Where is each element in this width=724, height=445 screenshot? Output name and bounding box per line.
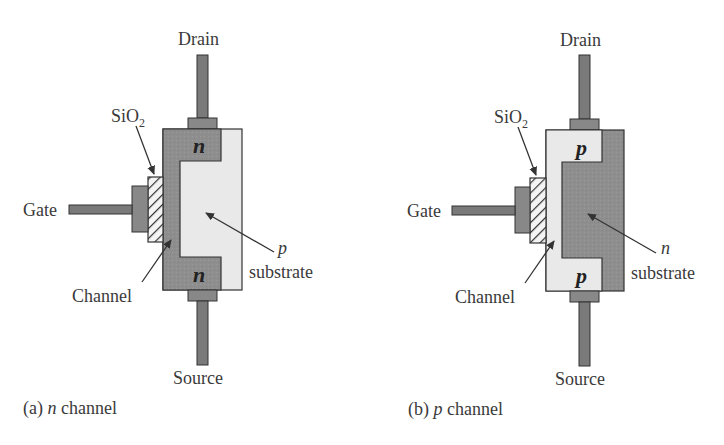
source-region-label: n xyxy=(193,262,205,287)
drain-contact-pad xyxy=(188,118,217,129)
gate-lead xyxy=(452,206,515,215)
substrate-type-label: p xyxy=(276,238,287,258)
panel-b-p-channel: Drain p p Source Gate SiO2 Channel n sub… xyxy=(407,30,695,420)
drain-label: Drain xyxy=(178,29,219,49)
channel-label: Channel xyxy=(455,287,515,307)
substrate-type-label: n xyxy=(661,238,670,258)
sio2-arrow xyxy=(136,126,154,174)
caption-b: (b) p channel xyxy=(408,399,503,420)
source-region-label: p xyxy=(574,263,587,288)
source-lead xyxy=(579,302,590,366)
substrate-label: substrate xyxy=(249,262,313,282)
gate-lead xyxy=(69,205,132,214)
substrate-label: substrate xyxy=(631,263,695,283)
drain-lead xyxy=(579,55,590,119)
drain-region-label: n xyxy=(193,133,205,158)
source-contact-pad xyxy=(188,290,217,301)
source-label: Source xyxy=(555,369,605,389)
sio2-oxide-layer xyxy=(530,178,546,243)
sio2-label: SiO2 xyxy=(494,107,528,131)
sio2-label: SiO2 xyxy=(111,106,145,130)
drain-region-label: p xyxy=(574,135,587,160)
mosfet-figure: Drain n n Source Gate SiO2 Channel p sub… xyxy=(0,0,724,445)
channel-label: Channel xyxy=(72,286,132,306)
drain-contact-pad xyxy=(570,119,599,130)
panel-a-n-channel: Drain n n Source Gate SiO2 Channel p sub… xyxy=(23,29,313,419)
gate-label: Gate xyxy=(23,200,57,220)
gate-label: Gate xyxy=(407,201,441,221)
source-label: Source xyxy=(173,368,223,388)
sio2-arrow xyxy=(518,127,536,175)
gate-electrode xyxy=(132,186,148,232)
gate-electrode xyxy=(515,187,530,233)
sio2-oxide-layer xyxy=(148,177,163,242)
drain-label: Drain xyxy=(560,30,601,50)
drain-lead xyxy=(197,55,208,118)
source-lead xyxy=(197,301,208,365)
source-contact-pad xyxy=(570,291,599,302)
caption-a: (a) n channel xyxy=(23,398,117,419)
